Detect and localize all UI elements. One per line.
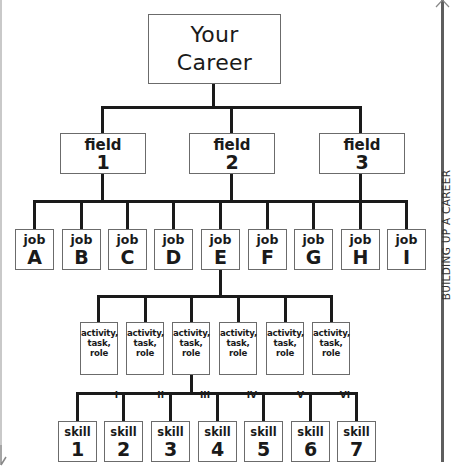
role-text: role bbox=[173, 348, 209, 358]
job-letter: B bbox=[63, 247, 100, 267]
task-text: task, bbox=[267, 338, 303, 348]
skill-number: 2 bbox=[105, 439, 142, 459]
field-number: 1 bbox=[61, 153, 145, 171]
job-letter: G bbox=[295, 247, 332, 267]
root-line2: Career bbox=[149, 49, 280, 77]
connector bbox=[359, 200, 362, 229]
task-text: task, bbox=[173, 338, 209, 348]
task-text: task, bbox=[127, 338, 163, 348]
connector bbox=[76, 392, 79, 421]
role-text: role bbox=[267, 348, 303, 358]
activity-text: activity, bbox=[313, 328, 349, 338]
job-node-g: jobG bbox=[294, 229, 333, 270]
skill-number: 3 bbox=[152, 439, 189, 459]
job-letter: D bbox=[155, 247, 192, 267]
connector bbox=[230, 106, 233, 134]
skill-node-6: skill6 bbox=[291, 421, 330, 462]
skill-label: skill bbox=[297, 425, 323, 439]
activity-text: activity, bbox=[173, 328, 209, 338]
skill-node-2: skill2 bbox=[104, 421, 143, 462]
activity-text: activity, bbox=[220, 328, 256, 338]
connector bbox=[172, 200, 175, 229]
skill-number: 5 bbox=[245, 439, 282, 459]
connector bbox=[169, 392, 172, 421]
skill-label: skill bbox=[157, 425, 183, 439]
connector-bus-activities bbox=[97, 295, 333, 298]
activity-text: activity, bbox=[267, 328, 303, 338]
job-letter: F bbox=[249, 247, 286, 267]
connector bbox=[266, 200, 269, 229]
connector bbox=[126, 200, 129, 229]
job-letter: I bbox=[388, 247, 425, 267]
skill-number: 1 bbox=[59, 439, 96, 459]
skill-node-4: skill4 bbox=[198, 421, 237, 462]
job-label: job bbox=[396, 232, 418, 247]
job-letter: E bbox=[202, 247, 239, 267]
role-text: role bbox=[220, 348, 256, 358]
building-up-a-career-label: BUILDING UP A CAREER bbox=[440, 160, 454, 310]
job-letter: H bbox=[342, 247, 379, 267]
connector bbox=[122, 392, 125, 421]
activity-text: activity, bbox=[81, 328, 117, 338]
connector bbox=[284, 295, 287, 322]
connector bbox=[144, 295, 147, 322]
activity-node-1: activity,task,role bbox=[80, 322, 118, 375]
job-label: job bbox=[257, 232, 279, 247]
activity-node-6: activity,task,role bbox=[312, 322, 350, 375]
job-label: job bbox=[303, 232, 325, 247]
skill-label: skill bbox=[110, 425, 136, 439]
skill-node-1: skill1 bbox=[58, 421, 97, 462]
activity-node-2: activity,task,role bbox=[126, 322, 164, 375]
connector bbox=[219, 200, 222, 229]
connector bbox=[312, 200, 315, 229]
job-label: job bbox=[163, 232, 185, 247]
job-label: job bbox=[24, 232, 46, 247]
task-text: task, bbox=[81, 338, 117, 348]
root-line1: Your bbox=[149, 21, 280, 49]
field-node-2: field 2 bbox=[189, 133, 275, 174]
connector bbox=[330, 295, 333, 322]
task-text: task, bbox=[313, 338, 349, 348]
connector bbox=[237, 295, 240, 322]
job-letter: C bbox=[109, 247, 146, 267]
skill-label: skill bbox=[64, 425, 90, 439]
arrow-up-icon bbox=[434, 0, 451, 8]
skill-label: skill bbox=[343, 425, 369, 439]
job-label: job bbox=[117, 232, 139, 247]
connector bbox=[97, 295, 100, 322]
connector bbox=[33, 200, 36, 229]
skill-node-5: skill5 bbox=[244, 421, 283, 462]
connector bbox=[230, 174, 233, 201]
job-node-d: jobD bbox=[154, 229, 193, 270]
connector bbox=[355, 392, 358, 421]
connector bbox=[359, 174, 362, 201]
arrow-down-icon bbox=[0, 445, 8, 467]
field-number: 2 bbox=[190, 153, 274, 171]
connector bbox=[262, 392, 265, 421]
connector bbox=[212, 84, 215, 108]
skill-node-3: skill3 bbox=[151, 421, 190, 462]
skill-label: skill bbox=[204, 425, 230, 439]
job-node-c: jobC bbox=[108, 229, 147, 270]
field-node-3: field 3 bbox=[319, 133, 405, 174]
connector bbox=[216, 392, 219, 421]
job-node-f: jobF bbox=[248, 229, 287, 270]
connector bbox=[101, 106, 104, 134]
activity-node-5: activity,task,role bbox=[266, 322, 304, 375]
skill-number: 7 bbox=[338, 439, 375, 459]
role-text: role bbox=[313, 348, 349, 358]
skill-number: 6 bbox=[292, 439, 329, 459]
job-node-h: jobH bbox=[341, 229, 380, 270]
job-label: job bbox=[210, 232, 232, 247]
job-node-b: jobB bbox=[62, 229, 101, 270]
connector bbox=[405, 200, 408, 229]
connector bbox=[309, 392, 312, 421]
field-node-1: field 1 bbox=[60, 133, 146, 174]
job-letter: A bbox=[16, 247, 53, 267]
job-label: job bbox=[71, 232, 93, 247]
connector bbox=[219, 270, 222, 297]
skill-number: 4 bbox=[199, 439, 236, 459]
connector bbox=[80, 200, 83, 229]
activity-node-4: activity,task,role bbox=[219, 322, 257, 375]
skill-label: skill bbox=[250, 425, 276, 439]
